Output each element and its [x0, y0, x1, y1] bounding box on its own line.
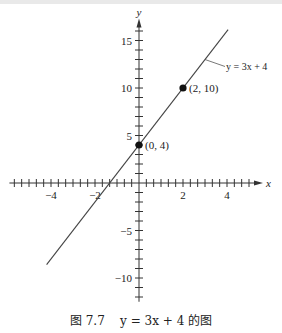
caption-prefix: 图 7.7: [70, 314, 105, 328]
data-point-marker: [135, 141, 142, 148]
x-tick-label: −4: [45, 189, 57, 201]
x-axis-arrow-icon: [254, 181, 263, 186]
x-tick-label: 2: [180, 189, 186, 201]
data-point-marker: [179, 84, 186, 91]
x-tick-label: −2: [89, 189, 101, 201]
x-tick-label: 4: [224, 189, 230, 201]
y-axis-label: y: [136, 6, 142, 18]
line-chart: x−4−224y15105−5−10y = 3x + 4(0, 4)(2, 10…: [0, 0, 282, 333]
y-tick-label: 10: [121, 82, 133, 94]
data-point-label: (2, 10): [189, 82, 219, 95]
label-leader-line: [205, 60, 225, 67]
figure-caption: 图 7.7 y = 3x + 4 的图: [0, 311, 282, 328]
y-axis-arrow-icon: [137, 19, 142, 28]
caption-suffix: 的图: [188, 314, 212, 328]
line-label: y = 3x + 4: [226, 61, 267, 72]
x-axis-label: x: [265, 177, 271, 189]
caption-equation: y = 3x + 4: [120, 314, 184, 328]
y-tick-label: −5: [120, 225, 132, 237]
data-point-label: (0, 4): [145, 139, 169, 152]
y-tick-label: −10: [115, 272, 133, 284]
y-tick-label: 5: [127, 130, 133, 142]
y-tick-label: 15: [121, 35, 133, 47]
